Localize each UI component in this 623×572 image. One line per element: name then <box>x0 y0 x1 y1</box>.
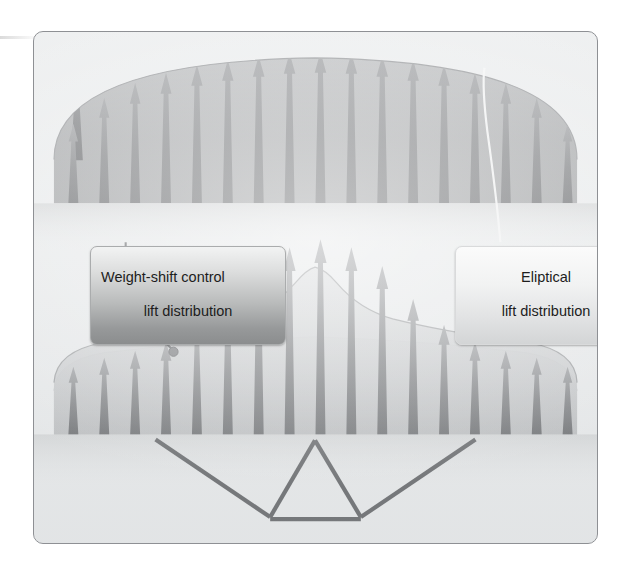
figure-frame: Weight-shift control lift distribution E… <box>33 31 598 544</box>
callout-elliptical[interactable]: Eliptical lift distribution <box>455 246 598 345</box>
callout-weight-shift-line1: Weight-shift control <box>101 269 275 286</box>
callout-weight-shift-line2: lift distribution <box>101 303 275 320</box>
weight-shift-leader-dot <box>169 347 178 356</box>
callout-elliptical-line2: lift distribution <box>466 303 598 320</box>
page-root: Weight-shift control lift distribution E… <box>0 0 623 572</box>
chart-elliptical-lift-distribution <box>34 52 597 249</box>
callout-elliptical-line1: Eliptical <box>466 269 598 286</box>
callout-weight-shift-control[interactable]: Weight-shift control lift distribution <box>90 246 286 345</box>
upper-shadow-band <box>34 203 597 249</box>
